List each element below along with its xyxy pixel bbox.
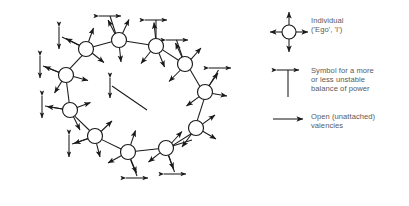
- node-individual: [149, 39, 164, 54]
- valency-arrow: [169, 70, 181, 82]
- link: [93, 42, 111, 47]
- legend-label-unstable-balance: Symbol for a more or less unstable balan…: [311, 66, 374, 94]
- node-individual: [198, 85, 213, 100]
- link: [136, 149, 159, 152]
- balance-stem: [45, 106, 63, 109]
- balance-stem: [72, 139, 89, 145]
- valency-arrow: [97, 143, 101, 157]
- node-individual: [189, 121, 204, 136]
- valency-arrow: [202, 115, 215, 124]
- node-individual: [112, 33, 127, 48]
- valency-arrow: [123, 20, 130, 34]
- balance-symbol: [164, 156, 186, 175]
- balance-symbol: [209, 68, 231, 86]
- legend-label-individual: Individual ('Ego', 'I'): [311, 16, 344, 34]
- node-individual: [178, 57, 193, 72]
- balance-symbol: [126, 160, 148, 179]
- valency-arrow: [73, 77, 88, 81]
- network-graph: [40, 16, 231, 178]
- valency-arrow: [191, 48, 202, 60]
- link: [126, 41, 148, 45]
- valency-arrow: [120, 48, 122, 63]
- node-individual: [79, 42, 94, 57]
- valency-arrow: [203, 131, 216, 139]
- balance-symbol: [145, 20, 167, 39]
- legend-node-circle: [282, 25, 296, 39]
- node-individual: [121, 145, 136, 160]
- node-individual: [159, 141, 174, 156]
- link: [101, 139, 121, 149]
- link: [163, 50, 179, 60]
- balance-stem: [43, 66, 60, 73]
- node-individual: [59, 68, 74, 83]
- node-individual: [88, 129, 103, 144]
- balance-stem: [177, 40, 183, 58]
- valency-arrow: [141, 52, 151, 64]
- balance-symbol: [59, 27, 80, 49]
- balance-symbol: [40, 56, 60, 78]
- link: [197, 99, 204, 120]
- legend-label-open-valencies: Open (unattached) valencies: [311, 112, 375, 130]
- legend-symbols: [270, 12, 308, 119]
- valency-arrow: [55, 81, 63, 93]
- valency-arrow: [101, 121, 112, 132]
- balance-stem: [209, 70, 219, 86]
- legend-individual-symbol: [270, 12, 308, 52]
- link: [190, 70, 200, 86]
- balance-symbol: [69, 135, 89, 157]
- stray-balance-symbol: [110, 78, 147, 110]
- valency-arrow: [212, 94, 227, 97]
- node-individual: [63, 103, 78, 118]
- stray-stem: [112, 86, 147, 110]
- balance-stem: [131, 160, 138, 177]
- valency-arrow: [77, 103, 91, 108]
- balance-symbol: [166, 40, 188, 58]
- balance-stem: [62, 37, 80, 46]
- balance-stem: [169, 156, 175, 173]
- valency-arrow: [89, 28, 94, 42]
- valency-arrow: [131, 131, 136, 145]
- balance-symbol: [42, 96, 63, 118]
- link: [70, 55, 83, 69]
- valency-arrow: [74, 117, 81, 130]
- diagram-svg: [0, 0, 409, 206]
- link: [67, 83, 70, 103]
- figure-canvas: Individual ('Ego', 'I') Symbol for a mor…: [0, 0, 409, 206]
- stray-segment: [173, 140, 193, 146]
- valency-arrow: [149, 153, 161, 162]
- legend-balance-symbol: [277, 70, 299, 97]
- valency-arrow: [108, 156, 121, 163]
- valency-arrow: [172, 132, 182, 144]
- valency-arrow: [159, 53, 165, 67]
- valency-arrow: [154, 23, 156, 39]
- valency-arrow: [92, 53, 104, 63]
- valency-arrow: [187, 97, 200, 106]
